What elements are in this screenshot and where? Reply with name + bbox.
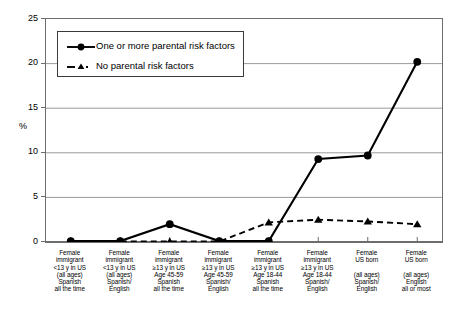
data-point-circle	[413, 58, 421, 66]
data-point-circle	[314, 155, 322, 163]
series-line	[71, 62, 418, 241]
legend-item-one-or-more-parental-risk-factors: One or more parental risk factors	[66, 38, 235, 52]
legend-label: One or more parental risk factors	[96, 40, 235, 51]
data-point-circle	[364, 152, 372, 160]
legend-item-no-parental-risk-factors: No parental risk factors	[66, 58, 194, 72]
y-axis-tick-label: 20	[14, 58, 38, 67]
legend-label: No parental risk factors	[96, 60, 194, 71]
legend-marker-triangle-dashed-line	[66, 59, 96, 71]
legend-marker-circle-solid-line	[66, 39, 96, 51]
data-point-triangle	[413, 220, 421, 227]
y-axis-tick-label: 15	[14, 103, 38, 112]
data-point-circle	[215, 237, 223, 242]
y-axis-tick-label: 10	[14, 147, 38, 156]
y-axis-tick-label: 25	[14, 14, 38, 23]
x-axis-category-label: FemaleUS born (all ages)Englishall or mo…	[387, 249, 445, 293]
data-point-circle	[67, 237, 75, 242]
chart-container: % 0510152025 One or more parental risk f…	[0, 0, 457, 319]
y-axis-title: %	[14, 121, 32, 131]
data-point-circle	[116, 237, 124, 242]
chart-legend: One or more parental risk factors No par…	[57, 31, 244, 77]
data-point-circle	[166, 220, 174, 228]
y-axis-tick-label: 5	[14, 192, 38, 201]
y-axis-tick-label: 0	[14, 237, 38, 246]
